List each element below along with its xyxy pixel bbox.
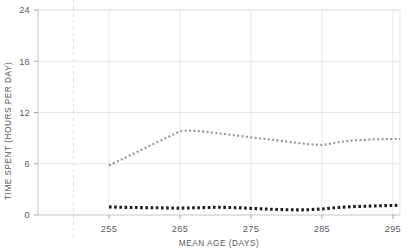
x-tick-label: 285 xyxy=(314,224,330,234)
y-tick-label: 18 xyxy=(19,57,30,67)
y-tick-label: 6 xyxy=(25,159,30,169)
x-axis-label: MEAN AGE (DAYS) xyxy=(179,239,259,248)
chart-container: 06121824 255265275285295 TIME SPENT (HOU… xyxy=(0,0,414,251)
x-tick-label: 295 xyxy=(385,224,401,234)
y-tick-label: 24 xyxy=(19,5,30,15)
x-tick-label: 265 xyxy=(172,224,188,234)
x-tick-label: 255 xyxy=(101,224,117,234)
y-tick-label: 0 xyxy=(25,210,30,220)
y-tick-label: 12 xyxy=(19,108,30,118)
y-axis-label: TIME SPENT (HOURS PER DAY) xyxy=(4,62,13,200)
x-tick-label: 275 xyxy=(243,224,259,234)
y-tick-labels: 06121824 xyxy=(19,5,30,220)
chart-svg: 06121824 255265275285295 TIME SPENT (HOU… xyxy=(0,0,414,251)
x-tick-labels: 255265275285295 xyxy=(101,224,401,234)
